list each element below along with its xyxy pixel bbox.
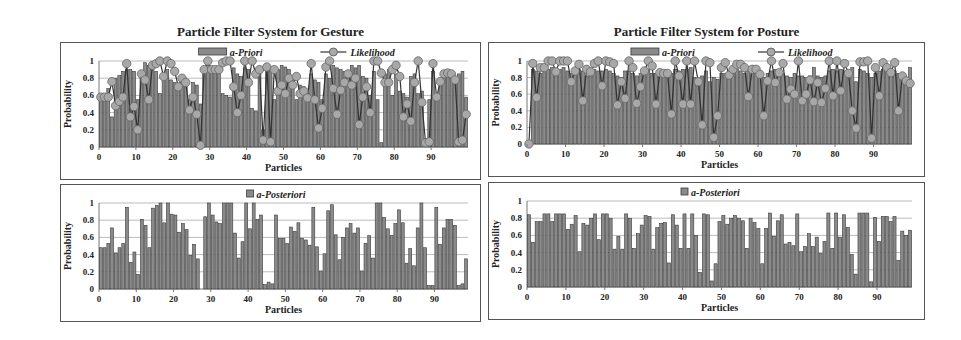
x-tick-label: 80 — [390, 152, 400, 162]
x-tick-label: 30 — [638, 149, 648, 159]
x-tick-label: 50 — [717, 292, 727, 302]
x-tick-label: 90 — [427, 152, 437, 162]
posture-posterior-chart: Probability00.20.40.60.81010203040506070… — [488, 182, 925, 320]
x-tick-label: 70 — [353, 152, 363, 162]
x-tick-label: 30 — [639, 292, 649, 302]
bar-series — [527, 213, 911, 287]
y-tick-label: 0 — [90, 284, 95, 294]
y-axis-label: Probability — [62, 80, 73, 128]
x-tick-label: 60 — [754, 149, 764, 159]
svg-text:a-Posteriori: a-Posteriori — [257, 189, 306, 200]
y-axis-label: Probability — [490, 220, 501, 268]
x-tick-label: 40 — [677, 149, 687, 159]
x-tick-label: 40 — [678, 292, 688, 302]
y-tick-label: 0.8 — [511, 213, 523, 223]
x-tick-label: 70 — [355, 294, 365, 304]
gesture-prior-likelihood-chart: Probability00.20.40.60.81010203040506070… — [60, 42, 481, 180]
y-tick-label: 0.6 — [83, 90, 95, 100]
x-tick-label: 50 — [715, 149, 725, 159]
y-tick-label: 0.4 — [83, 108, 95, 118]
y-tick-label: 0.6 — [511, 230, 523, 240]
x-tick-label: 90 — [869, 149, 879, 159]
legend: a-Posteriori — [247, 189, 306, 200]
x-tick-label: 30 — [206, 294, 216, 304]
x-tick-label: 90 — [430, 294, 440, 304]
posture-title: Particle Filter System for Posture — [488, 24, 925, 40]
legend: a-PrioriLikelihood — [631, 47, 833, 58]
x-tick-label: 80 — [834, 292, 844, 302]
x-tick-label: 80 — [393, 294, 403, 304]
y-tick-label: 0.8 — [83, 215, 95, 225]
x-tick-label: 0 — [97, 152, 102, 162]
x-tick-label: 50 — [279, 152, 289, 162]
y-tick-label: 0.6 — [83, 232, 95, 242]
legend: a-PrioriLikelihood — [199, 47, 396, 58]
bar-series — [99, 203, 467, 289]
x-tick-label: 10 — [132, 294, 142, 304]
x-tick-label: 60 — [318, 294, 328, 304]
y-tick-label: 0 — [518, 139, 523, 149]
x-tick-label: 20 — [169, 294, 179, 304]
legend-bar-swatch-icon — [247, 190, 254, 197]
legend-bar-swatch-icon — [681, 188, 688, 195]
y-tick-label: 0 — [90, 142, 95, 152]
x-tick-label: 10 — [561, 149, 571, 159]
svg-text:a-Priori: a-Priori — [230, 47, 263, 58]
gesture-posterior-chart: Probability00.20.40.60.81010203040506070… — [60, 184, 481, 322]
gesture-title: Particle Filter System for Gesture — [60, 24, 481, 40]
legend-line-marker-icon — [767, 48, 775, 56]
y-tick-label: 0.8 — [83, 73, 95, 83]
y-tick-label: 0.4 — [83, 250, 95, 260]
y-tick-label: 0 — [518, 282, 523, 292]
x-tick-label: 80 — [831, 149, 841, 159]
legend: a-Posteriori — [681, 187, 740, 198]
svg-text:a-Posteriori: a-Posteriori — [691, 187, 740, 198]
x-tick-label: 70 — [795, 292, 805, 302]
x-tick-label: 40 — [244, 294, 254, 304]
x-tick-label: 20 — [600, 292, 610, 302]
y-tick-label: 0.2 — [511, 122, 523, 132]
svg-text:a-Priori: a-Priori — [662, 47, 695, 58]
x-tick-label: 40 — [242, 152, 252, 162]
y-tick-label: 1 — [518, 56, 523, 66]
legend-line-marker-icon — [329, 48, 337, 56]
y-tick-label: 1 — [518, 196, 523, 206]
y-tick-label: 0.2 — [83, 267, 95, 277]
x-tick-label: 30 — [205, 152, 215, 162]
y-tick-label: 0.6 — [511, 89, 523, 99]
x-axis-label: Particles — [701, 159, 738, 170]
y-tick-label: 1 — [90, 198, 95, 208]
svg-text:Likelihood: Likelihood — [349, 47, 395, 58]
svg-text:Likelihood: Likelihood — [787, 47, 833, 58]
x-tick-label: 60 — [756, 292, 766, 302]
x-tick-label: 50 — [281, 294, 291, 304]
x-tick-label: 0 — [97, 294, 102, 304]
x-axis-label: Particles — [265, 162, 302, 173]
x-tick-label: 20 — [168, 152, 178, 162]
legend-bar-swatch-icon — [199, 48, 227, 55]
y-axis-label: Probability — [62, 222, 73, 270]
x-axis-label: Particles — [265, 304, 302, 315]
x-tick-label: 20 — [600, 149, 610, 159]
y-tick-label: 1 — [90, 56, 95, 66]
x-axis-label: Particles — [701, 302, 738, 313]
bar-series — [531, 68, 911, 144]
y-tick-label: 0.8 — [511, 73, 523, 83]
y-tick-label: 0.4 — [511, 106, 523, 116]
legend-bar-swatch-icon — [631, 48, 659, 55]
x-tick-label: 0 — [525, 292, 530, 302]
y-axis-label: Probability — [490, 78, 501, 126]
x-tick-label: 60 — [316, 152, 326, 162]
x-tick-label: 0 — [525, 149, 530, 159]
y-tick-label: 0.2 — [511, 265, 523, 275]
x-tick-label: 90 — [873, 292, 883, 302]
x-tick-label: 10 — [561, 292, 571, 302]
posture-prior-likelihood-chart: Probability00.20.40.60.81010203040506070… — [488, 42, 925, 177]
x-tick-label: 10 — [131, 152, 141, 162]
x-tick-label: 70 — [792, 149, 802, 159]
y-tick-label: 0.4 — [511, 248, 523, 258]
y-tick-label: 0.2 — [83, 125, 95, 135]
